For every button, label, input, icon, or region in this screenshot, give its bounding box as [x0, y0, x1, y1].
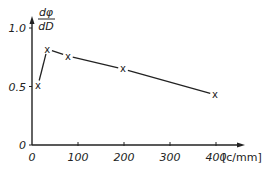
series-line-segment — [52, 51, 63, 55]
x-tick-label: 200 — [114, 151, 135, 164]
data-point-x-marker-icon: x — [120, 63, 126, 74]
y-axis-label-denominator: dD — [38, 20, 53, 33]
y-axis-label-numerator: dφ — [39, 6, 54, 19]
x-tick-label: 300 — [160, 151, 181, 164]
data-point-x-marker-icon: x — [44, 44, 50, 55]
y-tick-label: 0.5 — [9, 81, 27, 94]
x-axis-arrow-icon — [237, 143, 245, 148]
labels: dφ dD [c/mm] — [38, 6, 262, 164]
data-point-x-marker-icon: x — [65, 51, 71, 62]
y-tick-label: 1.0 — [9, 22, 27, 35]
x-tick-label: 0 — [29, 151, 36, 164]
series-line-segment — [39, 54, 46, 81]
x-tick-label: 100 — [68, 151, 89, 164]
axes — [30, 16, 246, 148]
data-point-x-marker-icon: x — [35, 80, 41, 91]
y-tick-label: 0 — [19, 139, 26, 152]
x-axis-unit-label: [c/mm] — [222, 151, 262, 164]
ticks: 010020030040000.51.0 — [9, 22, 227, 164]
data-point-x-marker-icon: x — [212, 89, 218, 100]
series-line-segment — [73, 57, 118, 68]
chart: 010020030040000.51.0 dφ dD [c/mm] xxxxx — [0, 0, 275, 169]
data-series: xxxxx — [35, 44, 218, 101]
y-axis-arrow-icon — [30, 16, 35, 24]
series-line-segment — [128, 70, 210, 93]
